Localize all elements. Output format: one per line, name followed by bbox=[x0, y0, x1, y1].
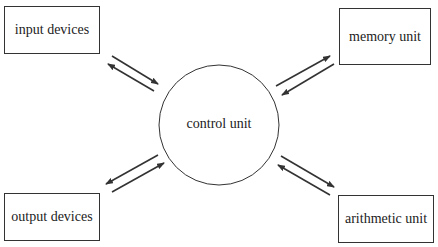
arrow-control-to-output bbox=[106, 155, 158, 184]
output-devices-label: output devices bbox=[11, 209, 92, 225]
input-devices-label: input devices bbox=[15, 22, 89, 38]
arithmetic-unit-label: arithmetic unit bbox=[345, 211, 427, 227]
control-unit-label: control unit bbox=[159, 116, 279, 132]
memory-unit-label: memory unit bbox=[349, 29, 421, 45]
arrow-output-to-control bbox=[112, 163, 164, 192]
memory-unit-box: memory unit bbox=[339, 8, 431, 65]
output-devices-box: output devices bbox=[4, 193, 100, 241]
arithmetic-unit-box: arithmetic unit bbox=[338, 195, 434, 243]
input-devices-box: input devices bbox=[4, 6, 100, 54]
